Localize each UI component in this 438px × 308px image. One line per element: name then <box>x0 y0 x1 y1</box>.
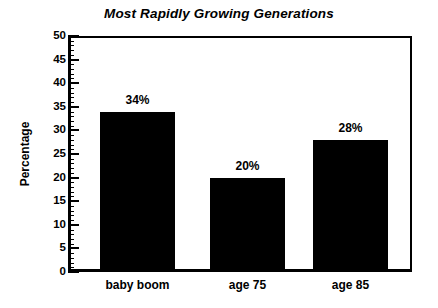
bars-group: 34%20%28% <box>68 36 412 272</box>
y-axis-title-text: Percentage <box>18 122 32 187</box>
y-axis-tick-label: 30 <box>36 125 66 137</box>
x-axis-tick-label: age 75 <box>193 278 303 292</box>
y-axis-title: Percentage <box>14 36 36 272</box>
x-axis-tick-label: baby boom <box>83 278 193 292</box>
y-axis-tick-label: 35 <box>36 101 66 113</box>
bar[interactable] <box>313 140 388 272</box>
y-axis-tick-label: 45 <box>36 54 66 66</box>
bar-value-label: 20% <box>208 160 288 172</box>
y-axis-tick-label: 5 <box>36 243 66 255</box>
y-axis-tick-label: 40 <box>36 77 66 89</box>
bar-value-label: 28% <box>311 122 391 134</box>
x-axis-tick-labels: baby boomage 75age 85 <box>68 278 412 300</box>
y-axis-tick-label: 10 <box>36 219 66 231</box>
y-axis-tick-label: 20 <box>36 172 66 184</box>
y-axis-tick-label: 25 <box>36 148 66 160</box>
bar-value-label: 34% <box>98 94 178 106</box>
chart-title: Most Rapidly Growing Generations <box>0 6 438 21</box>
y-axis-tick-label: 50 <box>36 30 66 42</box>
y-axis-tick-label: 15 <box>36 195 66 207</box>
bar-chart: Most Rapidly Growing Generations Percent… <box>0 0 438 308</box>
bar[interactable] <box>100 112 175 272</box>
bar[interactable] <box>210 178 285 272</box>
y-axis-tick-labels: 05101520253035404550 <box>36 36 66 272</box>
y-axis-tick-label: 0 <box>36 266 66 278</box>
x-axis-tick-label: age 85 <box>296 278 406 292</box>
